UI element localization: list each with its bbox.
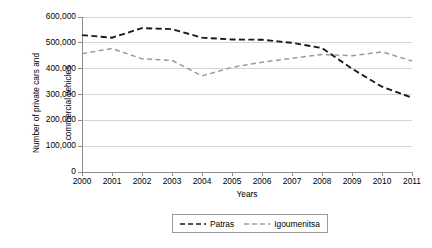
series-line-patras <box>82 28 412 97</box>
legend-item-igoumenitsa: Igoumenitsa <box>244 219 320 229</box>
x-axis-title: Years <box>82 189 412 199</box>
series-line-igoumenitsa <box>82 49 412 76</box>
line-chart: Number of private cars and commercial ve… <box>0 0 432 248</box>
plot-area <box>0 0 432 248</box>
chart-legend: Patras Igoumenitsa <box>172 214 328 233</box>
legend-label-patras: Patras <box>210 219 234 229</box>
legend-item-patras: Patras <box>180 219 234 229</box>
x-axis-tick-labels: 2000200120022003200420052006200720082009… <box>82 176 412 190</box>
legend-label-igoumenitsa: Igoumenitsa <box>274 219 320 229</box>
x-axis-tick-label: 2011 <box>392 176 432 186</box>
legend-swatch-igoumenitsa-icon <box>244 220 270 228</box>
legend-swatch-patras-icon <box>180 220 206 228</box>
